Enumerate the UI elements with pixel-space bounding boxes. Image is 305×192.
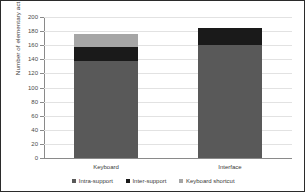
bar-segment-intra-support <box>74 61 138 158</box>
y-axis-tick <box>40 31 44 32</box>
legend-label: Intra-support <box>79 178 113 184</box>
plot-area: 200180160140120100806040200 <box>44 17 292 159</box>
bar-interface <box>198 28 262 158</box>
bar-keyboard <box>74 34 138 158</box>
gridline <box>44 17 292 18</box>
legend-swatch-icon <box>179 179 183 183</box>
legend-item-keyboard-shortcut[interactable]: Keyboard shortcut <box>179 178 234 184</box>
y-axis-tick <box>40 17 44 18</box>
x-axis-baseline <box>44 158 292 159</box>
y-axis-tick-label: 160 <box>28 42 38 48</box>
bar-segment-keyboard-shortcut <box>74 34 138 47</box>
bar-segment-intra-support <box>198 45 262 158</box>
legend-label: Keyboard shortcut <box>186 178 235 184</box>
x-axis-label-keyboard: Keyboard <box>93 164 119 170</box>
y-axis-tick <box>40 130 44 131</box>
y-axis-tick-label: 100 <box>28 85 38 91</box>
y-axis-tick <box>40 158 44 159</box>
chart-figure: Number of elementary actions 20018016014… <box>0 0 305 192</box>
legend-label: Inter-support <box>132 178 166 184</box>
y-axis-tick-label: 60 <box>31 113 38 119</box>
legend-item-inter-support[interactable]: Inter-support <box>126 178 167 184</box>
y-axis-tick-label: 0 <box>35 155 38 161</box>
y-axis-tick <box>40 73 44 74</box>
y-axis-tick-label: 140 <box>28 56 38 62</box>
y-axis-tick <box>40 45 44 46</box>
y-axis-tick-label: 40 <box>31 127 38 133</box>
legend-swatch-icon <box>126 179 130 183</box>
x-axis-label-interface: Interface <box>218 164 241 170</box>
y-axis-tick-label: 180 <box>28 28 38 34</box>
y-axis-tick-label: 120 <box>28 70 38 76</box>
y-axis-tick <box>40 144 44 145</box>
bar-segment-inter-support <box>74 47 138 61</box>
y-axis-tick <box>40 59 44 60</box>
legend-swatch-icon <box>72 179 76 183</box>
y-axis-tick <box>40 102 44 103</box>
y-axis-tick <box>40 88 44 89</box>
chart-legend: Intra-supportInter-supportKeyboard short… <box>1 178 305 184</box>
bar-segment-inter-support <box>198 28 262 46</box>
y-axis-title: Number of elementary actions <box>14 0 21 107</box>
y-axis-tick-label: 80 <box>31 99 38 105</box>
y-axis-tick <box>40 116 44 117</box>
legend-item-intra-support[interactable]: Intra-support <box>72 178 113 184</box>
y-axis-tick-label: 20 <box>31 141 38 147</box>
y-axis-tick-label: 200 <box>28 14 38 20</box>
